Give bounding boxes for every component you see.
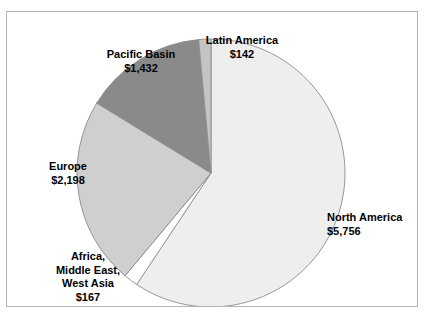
slice-label-latin-america-value: $142 (188, 48, 296, 62)
slice-label-pacific-basin: Pacific Basin $1,432 (91, 48, 191, 75)
pie-chart-figure: North America $5,756 Latin America $142 … (0, 0, 427, 318)
slice-label-north-america-name: North America (327, 211, 427, 225)
slice-label-europe-name: Europe (29, 160, 107, 174)
slice-label-europe-value: $2,198 (29, 174, 107, 188)
slice-label-europe: Europe $2,198 (29, 160, 107, 187)
slice-label-pacific-basin-value: $1,432 (91, 62, 191, 76)
slice-label-pacific-basin-name: Pacific Basin (91, 48, 191, 62)
slice-label-latin-america: Latin America $142 (188, 34, 296, 61)
slice-label-africa-value: $167 (39, 291, 137, 305)
slice-label-africa-middle-east-west-asia: Africa, Middle East, West Asia $167 (39, 250, 137, 304)
chart-frame-border: North America $5,756 Latin America $142 … (6, 11, 418, 307)
slice-label-latin-america-name: Latin America (188, 34, 296, 48)
slice-label-north-america-value: $5,756 (327, 225, 427, 239)
slice-label-africa-line1: Africa, (39, 250, 137, 264)
slice-label-north-america: North America $5,756 (327, 211, 427, 238)
slice-label-africa-line2: Middle East, (39, 264, 137, 278)
slice-label-africa-line3: West Asia (39, 277, 137, 291)
